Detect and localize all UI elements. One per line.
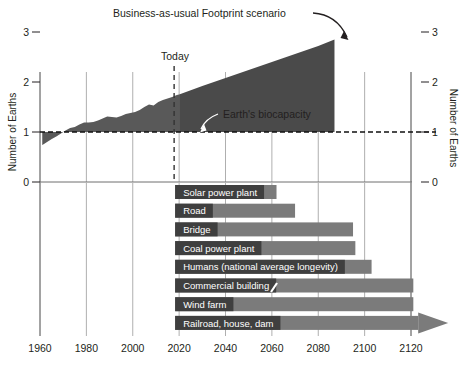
svg-text:1960: 1960 — [28, 342, 52, 354]
svg-text:2060: 2060 — [260, 342, 284, 354]
svg-text:0: 0 — [23, 176, 29, 188]
lifespan-bar: Commercial building — [175, 279, 413, 293]
bar-label: Humans (national average longevity) — [183, 261, 338, 272]
title-arrow-curve — [313, 13, 347, 37]
bar-label: Bridge — [183, 224, 210, 235]
bar-label: Coal power plant — [183, 243, 255, 254]
svg-text:2: 2 — [432, 76, 438, 88]
lifespan-bar: Wind farm — [175, 297, 413, 311]
x-axis-ticks: 196019802000202020402060208021002120 — [28, 342, 423, 354]
lifespan-bar: Road — [175, 204, 295, 218]
svg-text:2120: 2120 — [399, 342, 423, 354]
chart-title: Business-as-usual Footprint scenario — [113, 7, 286, 19]
bar-label: Railroad, house, dam — [183, 318, 273, 329]
svg-text:1: 1 — [432, 126, 438, 138]
bar-label: Commercial building — [183, 280, 269, 291]
right-axis-ticks: 0123 — [421, 26, 438, 188]
bar-arrow-head-icon — [418, 312, 448, 333]
footprint-chart: 0123 0123 196019802000202020402060208021… — [0, 0, 460, 381]
svg-text:3: 3 — [23, 26, 29, 38]
svg-text:0: 0 — [432, 176, 438, 188]
svg-text:2080: 2080 — [307, 342, 331, 354]
svg-text:2100: 2100 — [353, 342, 377, 354]
svg-text:1: 1 — [23, 126, 29, 138]
lifespan-bar: Humans (national average longevity) — [175, 260, 371, 274]
bar-label: Solar power plant — [183, 187, 257, 198]
svg-text:2: 2 — [23, 76, 29, 88]
svg-text:2020: 2020 — [167, 342, 191, 354]
footprint-history-area — [42, 95, 179, 146]
left-axis-ticks: 0123 — [23, 26, 40, 188]
svg-text:1980: 1980 — [75, 342, 99, 354]
lifespan-bar: Coal power plant — [175, 241, 355, 255]
biocapacity-label: Earth's biocapacity — [223, 108, 312, 120]
title-arrow-head — [341, 31, 349, 40]
chart-canvas: 0123 0123 196019802000202020402060208021… — [0, 0, 460, 381]
lifespan-bars: Solar power plantRoadBridgeCoal power pl… — [175, 185, 448, 333]
bar-label: Wind farm — [183, 299, 226, 310]
left-axis-title: Number of Earths — [7, 93, 18, 171]
today-label: Today — [161, 50, 190, 62]
lifespan-bar: Railroad, house, dam — [175, 312, 448, 333]
right-axis-title: Number of Earths — [448, 89, 459, 167]
svg-text:2000: 2000 — [121, 342, 145, 354]
svg-text:2040: 2040 — [214, 342, 238, 354]
lifespan-bar: Bridge — [175, 222, 353, 236]
bar-label: Road — [183, 205, 206, 216]
lifespan-bar: Solar power plant — [175, 185, 276, 199]
svg-text:3: 3 — [432, 26, 438, 38]
